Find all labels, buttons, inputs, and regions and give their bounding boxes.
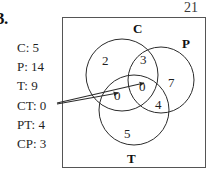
set-label-c: C	[133, 22, 142, 35]
leader-line-ct-to-ct-region	[57, 93, 118, 104]
region-count-c-and-t: 0	[114, 89, 121, 102]
region-count-c-and-p-and-t: 0	[139, 80, 146, 93]
region-count-p-and-t: 4	[155, 98, 162, 111]
region-count-t-only: 5	[124, 127, 131, 140]
region-count-c-and-p: 3	[140, 53, 147, 66]
set-label-p: P	[182, 37, 190, 50]
venn-circles-svg	[0, 0, 207, 178]
set-label-t: T	[127, 152, 136, 165]
region-count-c-only: 2	[102, 54, 109, 67]
venn-diagram-figure: 3. 21 C: 5 P: 14 T: 9 CT: 0 PT: 4 CP: 3 …	[0, 0, 207, 178]
region-count-p-only: 7	[168, 76, 175, 89]
